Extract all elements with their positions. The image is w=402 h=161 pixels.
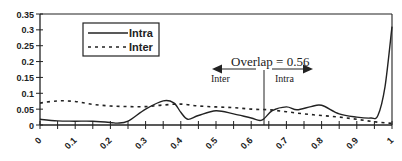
- y-tick-label: 0.15: [16, 73, 34, 83]
- x-tick-label: 0.9: [344, 135, 360, 151]
- x-tick-label: 0: [33, 135, 44, 146]
- legend: Intra Inter: [83, 23, 159, 56]
- y-tick-label: 0.1: [21, 89, 34, 99]
- x-tick-label: 1: [385, 135, 396, 146]
- legend-inter-label: Inter: [129, 41, 154, 53]
- y-tick-label: 0.25: [16, 41, 34, 51]
- series-inter-line: [40, 101, 392, 124]
- y-axis-ticks: 00.050.10.150.20.250.30.35: [16, 10, 43, 131]
- intra-direction-label: Intra: [275, 73, 294, 84]
- y-tick-label: 0.2: [21, 57, 34, 67]
- overlap-text: Overlap = 0.56: [231, 54, 310, 69]
- y-tick-label: 0: [29, 121, 34, 131]
- x-tick-label: 0.6: [239, 135, 255, 151]
- legend-intra-label: Intra: [129, 27, 154, 39]
- x-tick-label: 0.4: [168, 135, 184, 151]
- y-tick-label: 0.05: [16, 105, 34, 115]
- inter-direction-label: Inter: [211, 73, 231, 84]
- overlap-line-chart: 00.050.10.150.20.250.30.35 00.10.20.30.4…: [0, 0, 402, 161]
- x-tick-label: 0.3: [133, 135, 149, 151]
- y-tick-label: 0.3: [21, 25, 34, 35]
- overlap-annotation: Overlap = 0.56 Inter Intra: [211, 54, 313, 125]
- x-tick-label: 0.2: [98, 135, 114, 151]
- y-tick-label: 0.35: [16, 10, 34, 20]
- x-tick-label: 0.7: [274, 135, 290, 151]
- x-tick-label: 0.5: [203, 135, 219, 151]
- x-tick-label: 0.1: [63, 135, 79, 151]
- x-tick-label: 0.8: [309, 135, 325, 151]
